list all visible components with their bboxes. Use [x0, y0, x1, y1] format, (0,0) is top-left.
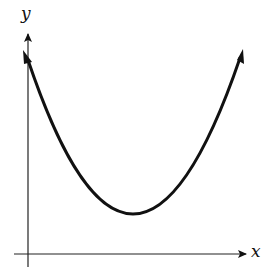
graph-canvas	[0, 0, 266, 268]
x-axis-label: x	[251, 241, 261, 261]
parabola-curve	[23, 49, 244, 214]
parabola-graph: y x	[0, 0, 266, 268]
y-axis-label: y	[21, 3, 31, 23]
